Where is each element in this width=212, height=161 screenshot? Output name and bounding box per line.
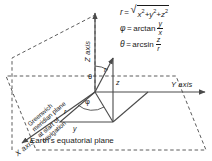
equation-r: r = √ x2+y2+z2 bbox=[120, 4, 169, 20]
equation-phi-lhs: φ bbox=[120, 23, 126, 33]
r-vector-label: r bbox=[104, 66, 106, 73]
y-component-label: y bbox=[73, 125, 77, 132]
z-component-label: z bbox=[116, 79, 120, 86]
radical-group: √ x2+y2+z2 bbox=[131, 5, 170, 20]
y-axis-label: Y axis bbox=[171, 81, 193, 89]
phi-angle-label: φ bbox=[85, 98, 90, 106]
equation-r-relation: = bbox=[124, 8, 129, 17]
theta-angle-label: θ bbox=[88, 73, 92, 81]
equation-theta-relation: = bbox=[126, 40, 131, 49]
equation-r-lhs: r bbox=[120, 7, 123, 17]
equation-phi: φ = arctan y x bbox=[120, 20, 169, 36]
z-axis-label: Z axis bbox=[84, 41, 92, 62]
equation-phi-function: arctan bbox=[133, 24, 155, 33]
equation-phi-denominator: x bbox=[157, 28, 163, 36]
equation-theta-fraction: z r bbox=[156, 36, 162, 52]
equation-phi-fraction: y x bbox=[157, 20, 163, 36]
equation-theta-function: arcsin bbox=[132, 40, 153, 49]
equation-phi-numerator: y bbox=[157, 20, 163, 27]
phi-angle-arc bbox=[78, 105, 104, 110]
equation-theta-denominator: r bbox=[156, 44, 160, 52]
equation-list: r = √ x2+y2+z2 φ = arctan y x θ = arcsin… bbox=[120, 4, 169, 52]
equation-theta-lhs: θ bbox=[120, 39, 125, 49]
equation-theta: θ = arcsin z r bbox=[120, 36, 169, 52]
radical-body: x2+y2+z2 bbox=[137, 5, 170, 20]
r-vector-line bbox=[95, 58, 113, 92]
equation-phi-relation: = bbox=[127, 24, 132, 33]
equation-theta-numerator: z bbox=[156, 36, 162, 43]
equatorial-plane-caption: Earth's equatorial plane bbox=[30, 137, 114, 145]
spherical-coordinates-diagram: Z axis Y axis X axis r z r y θ φ Greenwi… bbox=[0, 0, 212, 161]
